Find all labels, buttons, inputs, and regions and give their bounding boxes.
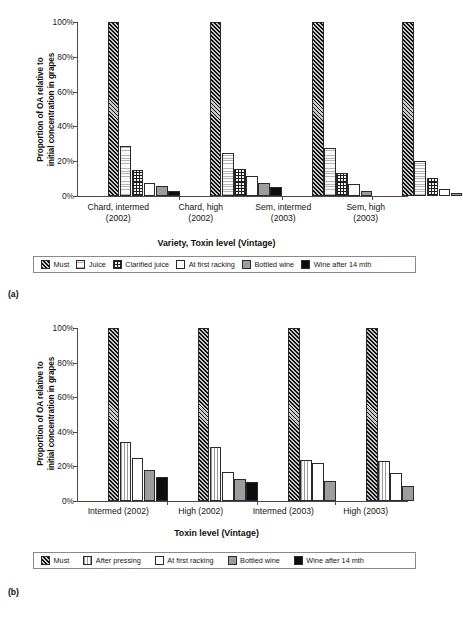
legend-item-label: Bottled wine bbox=[254, 260, 294, 269]
bar-wine-after-14-mth bbox=[270, 187, 282, 196]
legend-item[interactable]: Juice bbox=[76, 260, 106, 269]
bar-juice bbox=[222, 153, 234, 197]
x-axis-group-label-line1: Sem, high bbox=[325, 202, 408, 213]
legend-item-label: Juice bbox=[89, 260, 106, 269]
legend-item-label: At first racking bbox=[189, 260, 235, 269]
legend-item-label: Wine after 14 mth bbox=[314, 260, 372, 269]
bar-group bbox=[78, 22, 180, 196]
bar-clarified-juice bbox=[234, 169, 246, 196]
figure-caption-a: (a) bbox=[8, 289, 19, 299]
bar-wine-after-14-mth bbox=[156, 477, 168, 501]
x-axis-group-label: Chard, high(2002) bbox=[160, 202, 243, 225]
black-fill-swatch bbox=[294, 556, 303, 565]
bar-must bbox=[312, 22, 324, 196]
legend-item[interactable]: Must bbox=[41, 260, 69, 269]
y-axis-tick-label: 80% bbox=[57, 358, 74, 368]
legend-item[interactable]: At first racking bbox=[176, 260, 235, 269]
legend-item-label: Clarified juice bbox=[125, 260, 169, 269]
legend-item[interactable]: Bottled wine bbox=[242, 260, 294, 269]
bar-bottled-wine bbox=[451, 193, 463, 196]
plot-area-b bbox=[77, 328, 408, 502]
bar-group bbox=[168, 328, 258, 501]
legend-item[interactable]: Must bbox=[41, 556, 69, 565]
bar-juice bbox=[120, 146, 132, 196]
bar-bottled-wine bbox=[402, 486, 414, 501]
y-axis-tick-label: 40% bbox=[57, 427, 74, 437]
bar-bottled-wine bbox=[144, 470, 156, 501]
legend-item[interactable]: At first racking bbox=[155, 556, 214, 565]
legend-item-label: Must bbox=[54, 556, 70, 565]
y-axis-tick-label: 100% bbox=[53, 17, 74, 27]
bar-must bbox=[108, 328, 120, 501]
x-axis-title-a: Variety, Toxin level (Vintage) bbox=[0, 238, 433, 248]
legend-item-label: Wine after 14 mth bbox=[306, 556, 364, 565]
bar-juice bbox=[414, 161, 426, 196]
figure-b: Proportion of OA relative to initial con… bbox=[0, 306, 433, 611]
bar-group bbox=[258, 328, 336, 501]
bar-group bbox=[373, 22, 463, 196]
legend-item[interactable]: Clarified juice bbox=[113, 260, 169, 269]
legend-item[interactable]: Wine after 14 mth bbox=[294, 556, 364, 565]
figure-caption-b: (b) bbox=[8, 587, 19, 597]
bar-must bbox=[198, 328, 210, 501]
grey-fill-swatch bbox=[228, 556, 237, 565]
vertical-lines-swatch bbox=[83, 556, 92, 565]
bar-at-first-racking bbox=[312, 463, 324, 501]
diagonal-hatch-swatch bbox=[41, 260, 50, 269]
horizontal-lines-swatch bbox=[76, 260, 85, 269]
x-axis-group-label: Intermed (2002) bbox=[77, 506, 160, 517]
bar-group bbox=[283, 22, 373, 196]
figure-a: Proportion of OA relative to initial con… bbox=[0, 0, 433, 300]
x-axis-group-label-line2: (2002) bbox=[160, 213, 243, 224]
bar-at-first-racking bbox=[348, 184, 360, 196]
x-axis-group-label-line1: Chard, intermed bbox=[77, 202, 160, 213]
bar-juice bbox=[324, 148, 336, 196]
bar-must bbox=[366, 328, 378, 501]
x-axis-group-label-line2: (2002) bbox=[77, 213, 160, 224]
y-axis-tick-label: 20% bbox=[57, 156, 74, 166]
bar-after-pressing bbox=[210, 447, 222, 501]
legend-a: MustJuiceClarified juiceAt first racking… bbox=[33, 256, 416, 273]
bar-bottled-wine bbox=[258, 183, 270, 196]
bar-must bbox=[402, 22, 414, 196]
bar-wine-after-14-mth bbox=[168, 191, 180, 196]
bar-group bbox=[180, 22, 282, 196]
bar-groups-a bbox=[78, 22, 408, 196]
bar-must bbox=[288, 328, 300, 501]
x-axis-group-label-line1: Chard, high bbox=[160, 202, 243, 213]
bar-bottled-wine bbox=[361, 191, 373, 196]
y-axis-tick-label: 60% bbox=[57, 392, 74, 402]
y-axis-tick-label: 40% bbox=[57, 121, 74, 131]
legend-item[interactable]: Wine after 14 mth bbox=[301, 260, 371, 269]
bar-at-first-racking bbox=[144, 183, 156, 196]
x-axis-labels-a: Chard, intermed(2002)Chard, high(2002)Se… bbox=[77, 202, 407, 225]
plot-area-a bbox=[77, 22, 408, 197]
bar-groups-b bbox=[78, 328, 408, 501]
x-axis-labels-b: Intermed (2002)High (2002)Intermed (2003… bbox=[77, 506, 407, 517]
legend-item[interactable]: Bottled wine bbox=[228, 556, 280, 565]
x-axis-group-label-line1: High (2003) bbox=[325, 506, 408, 517]
x-axis-group-label-line1: High (2002) bbox=[160, 506, 243, 517]
legend-item[interactable]: After pressing bbox=[83, 556, 141, 565]
x-axis-group-label-line2: (2003) bbox=[242, 213, 325, 224]
bar-bottled-wine bbox=[156, 186, 168, 196]
legend-item-label: Bottled wine bbox=[240, 556, 280, 565]
white-fill-swatch bbox=[155, 556, 164, 565]
x-axis-group-label: Sem, intermed(2003) bbox=[242, 202, 325, 225]
bar-clarified-juice bbox=[427, 178, 439, 196]
x-axis-group-label: High (2003) bbox=[325, 506, 408, 517]
x-axis-group-label: High (2002) bbox=[160, 506, 243, 517]
y-axis-tick-label: 80% bbox=[57, 52, 74, 62]
bar-clarified-juice bbox=[132, 170, 144, 196]
bar-at-first-racking bbox=[222, 472, 234, 501]
bar-must bbox=[210, 22, 222, 196]
x-axis-group-label-line1: Sem, intermed bbox=[242, 202, 325, 213]
x-axis-group-label: Intermed (2003) bbox=[242, 506, 325, 517]
bar-wine-after-14-mth bbox=[246, 482, 258, 501]
diagonal-hatch-swatch bbox=[41, 556, 50, 565]
y-axis-tick-label: 20% bbox=[57, 461, 74, 471]
bar-at-first-racking bbox=[439, 189, 451, 196]
bar-after-pressing bbox=[300, 460, 312, 501]
x-axis-group-label-line2: (2003) bbox=[325, 213, 408, 224]
bar-after-pressing bbox=[120, 442, 132, 501]
